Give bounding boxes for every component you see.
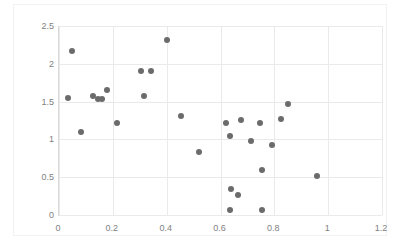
x-axis-tick-label: 0.8 xyxy=(253,224,293,233)
x-axis-tick-label: 0.4 xyxy=(146,224,186,233)
y-axis-tick-label: 1 xyxy=(14,135,54,144)
data-point xyxy=(178,113,184,119)
data-point xyxy=(164,37,170,43)
gridline-vertical xyxy=(328,26,329,215)
data-point xyxy=(227,207,233,213)
x-axis-tick-labels: 00.20.40.60.811.2 xyxy=(58,224,382,238)
x-axis-tick-label: 0.2 xyxy=(92,224,132,233)
scatter-chart: 00.511.522.5 00.20.40.60.811.2 xyxy=(0,0,400,249)
data-point xyxy=(104,87,110,93)
data-point xyxy=(235,192,241,198)
data-point xyxy=(114,120,120,126)
gridline-vertical xyxy=(274,26,275,215)
y-axis-tick-label: 2.5 xyxy=(14,22,54,31)
data-point xyxy=(148,68,154,74)
data-point xyxy=(285,101,291,107)
gridline-horizontal xyxy=(59,215,382,216)
data-point xyxy=(248,138,254,144)
y-axis-tick-label: 0 xyxy=(14,211,54,220)
x-axis-tick-label: 1 xyxy=(307,224,347,233)
data-point xyxy=(259,207,265,213)
data-point xyxy=(227,133,233,139)
data-point xyxy=(196,149,202,155)
gridline-vertical xyxy=(59,26,60,215)
data-point xyxy=(238,117,244,123)
gridline-vertical xyxy=(167,26,168,215)
x-axis-tick-label: 0 xyxy=(38,224,78,233)
data-point xyxy=(223,120,229,126)
data-point xyxy=(69,48,75,54)
data-point xyxy=(78,129,84,135)
data-point xyxy=(314,173,320,179)
data-point xyxy=(259,167,265,173)
plot-area xyxy=(58,26,382,216)
data-point xyxy=(138,68,144,74)
y-axis-tick-labels: 00.511.522.5 xyxy=(14,26,54,216)
chart-frame: 00.511.522.5 00.20.40.60.811.2 xyxy=(13,4,387,236)
data-point xyxy=(141,93,147,99)
data-point xyxy=(228,186,234,192)
data-point xyxy=(65,95,71,101)
y-axis-tick-label: 1.5 xyxy=(14,97,54,106)
y-axis-tick-label: 2 xyxy=(14,59,54,68)
gridline-vertical xyxy=(382,26,383,215)
y-axis-tick-label: 0.5 xyxy=(14,173,54,182)
data-point xyxy=(278,116,284,122)
x-axis-tick-label: 0.6 xyxy=(200,224,240,233)
data-point xyxy=(257,120,263,126)
x-axis-tick-label: 1.2 xyxy=(361,224,400,233)
gridline-vertical xyxy=(221,26,222,215)
